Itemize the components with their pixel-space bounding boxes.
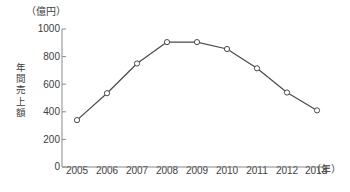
- y-tick-marks: [62, 29, 66, 167]
- data-point-2011: [254, 66, 259, 71]
- data-point-2008: [164, 40, 169, 45]
- data-point-2013: [314, 108, 319, 113]
- data-point-2012: [284, 90, 289, 95]
- data-point-markers: [74, 40, 319, 123]
- plot-area: [0, 0, 350, 192]
- data-point-2007: [134, 61, 139, 66]
- line-chart: （億円） 年間売上額 （年） 1000 800 600 400 200 0 20…: [0, 0, 350, 192]
- data-point-2006: [104, 91, 109, 96]
- data-point-2010: [224, 46, 229, 51]
- data-point-2005: [74, 118, 79, 123]
- data-point-2009: [194, 40, 199, 45]
- data-line: [77, 42, 317, 120]
